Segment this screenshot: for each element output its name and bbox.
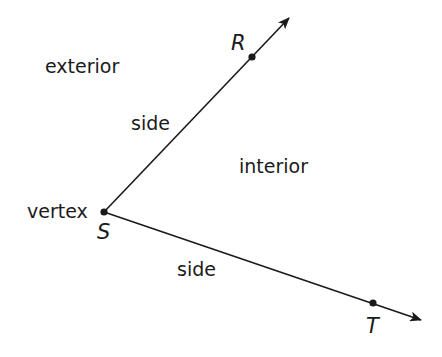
point-r-dot	[248, 53, 255, 60]
side-upper-label: side	[131, 112, 170, 134]
exterior-label: exterior	[45, 55, 119, 77]
interior-label: interior	[239, 155, 308, 177]
angle-diagram: R S T exterior interior side side vertex	[0, 0, 442, 357]
side-lower-label: side	[177, 258, 216, 280]
angle-diagram-svg: R S T exterior interior side side vertex	[0, 0, 442, 357]
point-t-dot	[369, 299, 376, 306]
vertex-label: vertex	[27, 200, 88, 222]
point-t-label: T	[366, 314, 381, 338]
point-r-label: R	[231, 31, 246, 55]
point-s-label: S	[97, 220, 110, 244]
point-s-dot	[100, 208, 107, 215]
